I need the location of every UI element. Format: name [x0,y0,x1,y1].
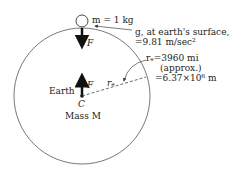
force-label-center: F [87,80,93,90]
mass-M-label: Mass M [65,111,101,121]
mass-label: m = 1 kg [92,15,134,25]
re-label-line2: (approx.) [160,63,202,73]
g-label-line1: g, at earth's surface, [135,27,229,37]
g-label-line2: =9.81 m/sec² [135,37,196,47]
g-pointer-line [95,26,132,30]
earth-label: Earth [49,86,75,96]
test-mass-ball [76,15,88,27]
re-label-line1: rₑ=3960 mi [146,53,199,63]
re-label-line3: =6.37×10⁶ m [155,73,217,83]
force-label-top: F [87,38,93,48]
radius-label: rₑ [107,78,115,88]
re-pointer-arc [124,60,146,81]
center-label: C [78,99,85,109]
